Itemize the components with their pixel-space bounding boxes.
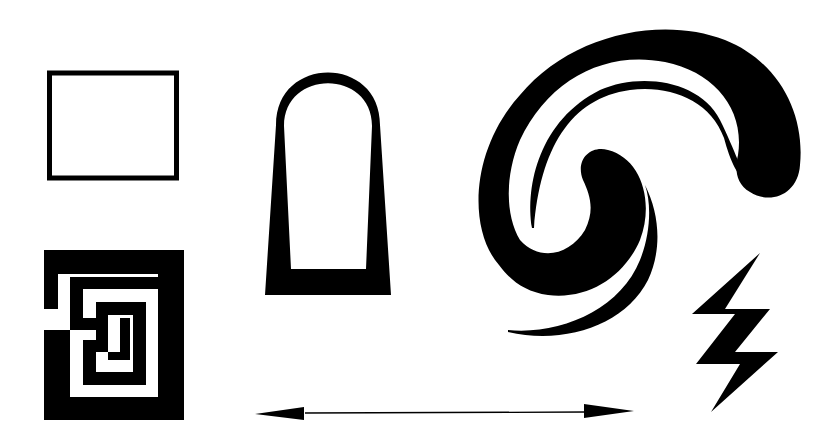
figure-canvas [0, 0, 826, 444]
figure-svg [0, 0, 826, 444]
